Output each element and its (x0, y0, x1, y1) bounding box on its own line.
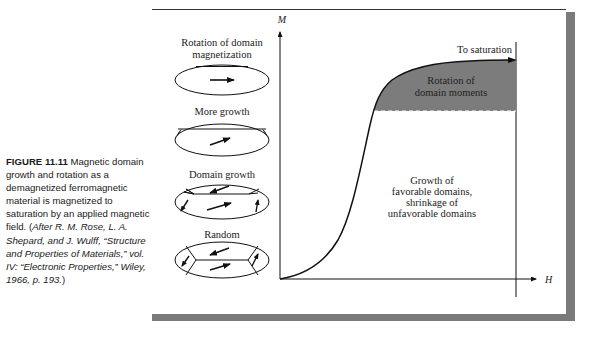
stage-title: Random (204, 229, 240, 240)
stage-title: Rotation of domain (181, 37, 263, 48)
growth-region-label: unfavorable domains (388, 208, 476, 219)
stage-title: Domain growth (189, 169, 256, 180)
magnetization-diagram: Rotation of domain magnetization More gr… (0, 0, 603, 347)
stage-title: More growth (194, 106, 250, 117)
stage-title: magnetization (192, 49, 252, 60)
growth-region-label: favorable domains, (392, 186, 472, 197)
h-axis-label: H (544, 274, 553, 285)
stage-random: Random (175, 229, 269, 278)
rotation-region-label: domain moments (415, 87, 488, 98)
rotation-region-label: Rotation of (427, 75, 475, 86)
growth-region-label: Growth of (410, 175, 454, 186)
stage-rotation: Rotation of domain magnetization (175, 37, 269, 95)
stage-domain-growth: Domain growth (175, 169, 269, 219)
saturation-label: To saturation (457, 44, 513, 55)
growth-region-label: shrinkage of (406, 197, 459, 208)
stage-more-growth: More growth (175, 106, 269, 156)
m-axis-label: M (277, 14, 287, 25)
